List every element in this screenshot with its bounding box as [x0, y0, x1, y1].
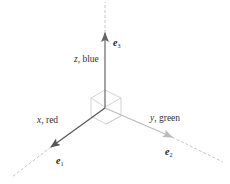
e2-label: e2	[165, 146, 172, 158]
y-axis-label: y, green	[149, 113, 180, 123]
x-axis-label: x, red	[36, 115, 58, 125]
cube-edge-back-left	[91, 98, 105, 107]
z-axis-label: z, blue	[73, 54, 99, 64]
axes-diagram: z, blue x, red y, green e3 e1 e2	[0, 0, 230, 184]
x-axis-dashed-extension	[12, 147, 51, 177]
y-axis-dashed-extension	[172, 137, 223, 162]
unit-cube	[91, 90, 121, 124]
cube-outline	[91, 90, 121, 124]
e1-label: e1	[56, 155, 63, 167]
x-axis-vector	[51, 108, 105, 147]
e3-label: e3	[113, 37, 120, 49]
cube-edge-back-right	[105, 98, 121, 107]
cube-edge-front-down	[106, 116, 121, 124]
